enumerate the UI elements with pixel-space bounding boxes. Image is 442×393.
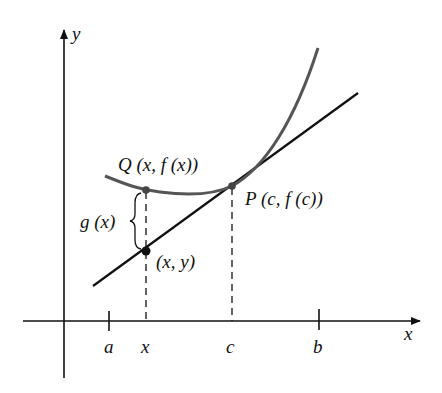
- tick-label-x: x: [140, 336, 150, 357]
- tick-label-a: a: [104, 336, 114, 357]
- label-x-y: (x, y): [156, 251, 195, 273]
- tangent-line-diagram: y x a x c b Q (x, f (x)) P (c, f (c)) (x…: [0, 0, 442, 393]
- y-axis-label: y: [70, 23, 81, 44]
- label-g-x: g (x): [80, 211, 115, 233]
- label-Q: Q (x, f (x)): [118, 154, 198, 176]
- point-x-y: [142, 247, 151, 256]
- point-Q: [142, 186, 150, 194]
- x-axis-label: x: [403, 323, 413, 344]
- tick-label-c: c: [226, 336, 235, 357]
- label-P: P (c, f (c)): [244, 188, 323, 210]
- point-P: [228, 182, 236, 190]
- brace-g: [130, 193, 141, 249]
- tick-label-b: b: [313, 336, 323, 357]
